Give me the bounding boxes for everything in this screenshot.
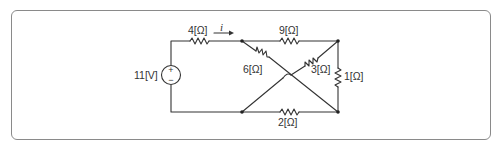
node-bottom-right [336, 110, 340, 114]
wire-3-a [242, 78, 283, 112]
node-bottom-left [240, 110, 244, 114]
resistor-1-icon [335, 68, 341, 87]
source-label: 11[V] [134, 70, 158, 81]
node-top-right [336, 39, 340, 43]
svg-text:+: + [168, 65, 173, 75]
arrow-head-icon [229, 31, 234, 36]
resistor-6-label: 6[Ω] [243, 64, 263, 75]
wire-3-c [318, 41, 338, 58]
wire-3-b [291, 66, 305, 75]
resistor-9-label: 9[Ω] [279, 25, 299, 36]
resistor-6-icon [256, 47, 269, 57]
wire-6-a [242, 41, 256, 51]
current-label: i [220, 22, 223, 33]
node-top-left [240, 39, 244, 43]
resistor-4-label: 4[Ω] [188, 25, 208, 36]
resistor-2-icon [280, 109, 299, 115]
resistor-9-icon [280, 38, 299, 44]
wire-3-hop [283, 74, 291, 78]
wire-left-bottom [171, 85, 242, 112]
resistor-4-icon [190, 38, 209, 44]
resistor-1-label: 1[Ω] [344, 71, 364, 82]
wire-left-top [171, 41, 190, 65]
resistor-2-label: 2[Ω] [278, 117, 298, 128]
svg-text:−: − [168, 75, 173, 85]
resistor-3-label: 3[Ω] [311, 64, 331, 75]
